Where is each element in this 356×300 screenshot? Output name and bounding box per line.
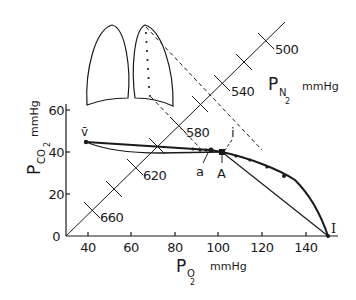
alveolar-point	[219, 149, 225, 155]
arterial-label: a	[196, 164, 204, 179]
inspired-point	[326, 234, 330, 238]
svg-text:540: 540	[231, 84, 255, 99]
svg-text:mmHg: mmHg	[28, 100, 41, 137]
svg-text:620: 620	[143, 168, 167, 183]
x-axis-title: P O 2 mmHg	[176, 256, 247, 287]
y-tick-labels: 20 40 60	[48, 103, 64, 202]
right-lung	[133, 25, 173, 106]
svg-text:60: 60	[48, 103, 64, 118]
o2-co2-diagram: 0 40 60 80 100 120 140 20 40 60 500 540 …	[0, 0, 356, 300]
svg-text:P: P	[24, 165, 44, 175]
svg-text:500: 500	[275, 42, 299, 57]
svg-text:100: 100	[206, 240, 230, 255]
lung-dotted-line	[145, 32, 151, 97]
svg-text:P: P	[176, 256, 186, 276]
svg-text:80: 80	[167, 240, 183, 255]
svg-text:580: 580	[186, 125, 210, 140]
lungs-illustration	[87, 25, 173, 106]
svg-text:40: 40	[80, 240, 96, 255]
alveolar-label: A	[217, 166, 226, 181]
svg-text:P: P	[268, 74, 278, 94]
svg-text:CO: CO	[36, 149, 47, 164]
n2-axis-title: P N 2 mmHg	[268, 74, 339, 106]
gas-r-line	[222, 152, 328, 236]
svg-text:mmHg: mmHg	[302, 80, 339, 93]
ideal-label: i	[231, 125, 235, 140]
svg-text:2: 2	[285, 97, 290, 106]
i-pointer	[225, 140, 232, 150]
venous-label: v̄	[81, 125, 88, 139]
svg-text:20: 20	[48, 187, 64, 202]
inspired-label: I	[331, 221, 336, 236]
n2-isopleth-axis	[66, 22, 285, 236]
svg-text:0: 0	[52, 229, 60, 244]
svg-text:2: 2	[190, 278, 195, 287]
x-tick-labels: 0 40 60 80 100 120 140	[52, 229, 318, 255]
svg-text:660: 660	[100, 210, 124, 225]
left-lung	[87, 25, 129, 105]
svg-text:mmHg: mmHg	[210, 260, 247, 273]
svg-text:2: 2	[43, 142, 52, 147]
arterial-point	[209, 148, 214, 153]
a-pointer	[203, 153, 208, 163]
svg-text:140: 140	[294, 240, 318, 255]
n2-tick-labels: 500 540 580 620 660	[100, 42, 299, 225]
venous-point	[84, 140, 88, 144]
svg-text:120: 120	[250, 240, 274, 255]
svg-text:60: 60	[123, 240, 139, 255]
